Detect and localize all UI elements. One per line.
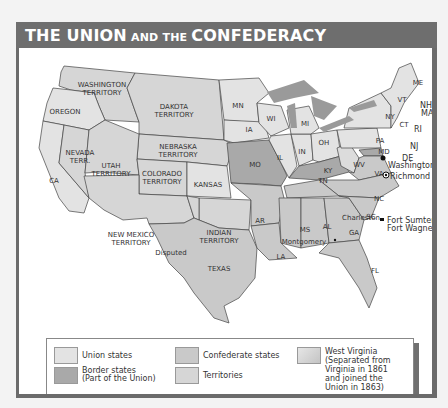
svg-text:KANSAS: KANSAS	[194, 181, 223, 189]
svg-text:LA: LA	[277, 253, 286, 261]
svg-text:MN: MN	[232, 102, 243, 110]
svg-text:CA: CA	[49, 177, 59, 185]
svg-text:ME: ME	[413, 79, 423, 87]
svg-text:TERRITORY: TERRITORY	[82, 89, 123, 97]
svg-text:Richmond: Richmond	[390, 172, 430, 181]
new-york	[344, 93, 391, 128]
map-title: THE UNION AND THE CONFEDERACY	[25, 26, 326, 45]
map-frame: THE UNION AND THE CONFEDERACY	[16, 22, 437, 398]
legend-label-border-2: (Part of the Union)	[82, 374, 156, 383]
svg-text:NEW MEXICO: NEW MEXICO	[108, 231, 155, 239]
svg-text:VA: VA	[374, 170, 383, 178]
svg-text:VT: VT	[397, 96, 407, 104]
legend-label-union: Union states	[82, 351, 132, 360]
lake-superior	[267, 80, 319, 103]
map-legend: Union states Border states (Part of the …	[46, 338, 414, 394]
texas	[149, 218, 257, 323]
svg-text:NEBRASKA: NEBRASKA	[159, 143, 197, 151]
legend-label-wv-5: Union in 1863)	[325, 383, 384, 392]
svg-text:Fort Wagner: Fort Wagner	[387, 224, 432, 233]
florida	[319, 240, 377, 308]
svg-text:Disputed: Disputed	[155, 249, 186, 257]
fort-sumter-marker-icon	[380, 218, 384, 221]
svg-text:TN: TN	[317, 177, 328, 185]
svg-text:GA: GA	[349, 229, 359, 237]
svg-text:TERR.: TERR.	[69, 157, 90, 165]
svg-text:IL: IL	[277, 154, 283, 162]
svg-text:PA: PA	[376, 137, 385, 145]
legend-swatch-confederate	[175, 347, 199, 364]
svg-text:AL: AL	[323, 223, 332, 231]
svg-text:OH: OH	[319, 139, 330, 147]
svg-text:WASHINGTON: WASHINGTON	[78, 81, 127, 89]
svg-text:INDIAN: INDIAN	[207, 229, 232, 237]
svg-text:WV: WV	[353, 161, 365, 169]
kansas	[187, 162, 231, 198]
legend-label-confederate: Confederate states	[203, 351, 280, 360]
svg-text:MA: MA	[421, 109, 432, 118]
svg-text:UTAH: UTAH	[102, 162, 121, 170]
legend-swatch-border	[54, 367, 78, 384]
washington-star-icon	[381, 156, 386, 161]
legend-label-wv-3: Virginia in 1861	[325, 365, 388, 374]
legend-swatch-union	[54, 347, 78, 364]
svg-text:CT: CT	[399, 121, 409, 129]
montgomery-dot-icon	[334, 239, 336, 241]
svg-text:TERRITORY: TERRITORY	[91, 170, 132, 178]
svg-text:RI: RI	[414, 125, 422, 134]
svg-text:MD: MD	[378, 148, 389, 156]
svg-text:COLORADO: COLORADO	[142, 170, 182, 178]
svg-text:AR: AR	[255, 217, 265, 225]
legend-label-wv-2: (Separated from	[325, 356, 391, 365]
map-header: THE UNION AND THE CONFEDERACY	[16, 22, 437, 48]
lake-huron	[311, 96, 337, 120]
svg-text:Charleston: Charleston	[342, 214, 380, 222]
svg-text:IA: IA	[246, 126, 253, 134]
svg-text:TERRITORY: TERRITORY	[142, 178, 183, 186]
legend-label-territories: Territories	[203, 371, 243, 380]
svg-text:FL: FL	[371, 267, 379, 275]
svg-text:TERRITORY: TERRITORY	[111, 239, 152, 247]
svg-text:NEVADA: NEVADA	[66, 149, 95, 157]
svg-text:MI: MI	[301, 120, 309, 128]
svg-text:NJ: NJ	[410, 142, 418, 151]
legend-swatch-west-virginia	[297, 347, 321, 364]
legend-label-wv-1: West Virginia	[325, 347, 377, 356]
svg-text:MO: MO	[249, 161, 261, 169]
svg-text:NC: NC	[374, 195, 384, 203]
svg-text:KY: KY	[324, 167, 333, 175]
svg-text:MS: MS	[300, 226, 311, 234]
svg-text:Montgomery: Montgomery	[282, 238, 326, 246]
pennsylvania	[337, 128, 381, 148]
map-area: WASHINGTON TERRITORY OREGON DAKOTA TERRI…	[19, 48, 432, 394]
svg-text:IN: IN	[298, 148, 305, 156]
svg-text:TERRITORY: TERRITORY	[199, 237, 240, 245]
svg-text:Washington: Washington	[388, 161, 432, 170]
svg-text:TERRITORY: TERRITORY	[158, 151, 199, 159]
svg-text:NY: NY	[385, 113, 395, 121]
svg-text:WI: WI	[267, 115, 276, 123]
svg-text:OREGON: OREGON	[50, 108, 81, 116]
legend-swatch-territories	[175, 367, 199, 384]
legend-label-wv-4: and joined the	[325, 374, 383, 383]
svg-text:TEXAS: TEXAS	[207, 265, 231, 273]
svg-text:DAKOTA: DAKOTA	[160, 103, 189, 111]
svg-text:TERRITORY: TERRITORY	[154, 111, 195, 119]
